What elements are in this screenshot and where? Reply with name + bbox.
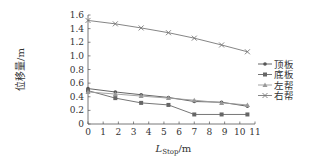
square-marker-icon (263, 73, 267, 77)
square-marker-icon (166, 103, 170, 107)
x-tick-label: 10 (234, 127, 246, 137)
legend-item: 左帮 (258, 80, 294, 91)
y-axis-title: 位移量/m (14, 48, 26, 91)
square-marker-icon (113, 96, 117, 100)
x-axis-title: LStop/m (155, 143, 192, 156)
y-tick-label: 0 (78, 119, 84, 129)
square-marker-icon (192, 112, 196, 116)
axes: 0123456789101100.20.40.60.81.01.21.41.6 (70, 10, 261, 137)
y-tick-label: 1.4 (70, 24, 85, 34)
dot-marker-icon (263, 62, 267, 66)
legend-label: 右帮 (274, 90, 294, 101)
x-axis-label: LStop/m (155, 143, 192, 156)
y-tick-label: 1.0 (70, 51, 85, 61)
y-tick-label: 0.2 (70, 105, 84, 115)
x-tick-label: 8 (207, 127, 213, 137)
x-tick-label: 9 (222, 127, 228, 137)
y-tick-label: 0.6 (70, 78, 85, 88)
line-chart: 位移量/m 0123456789101100.20.40.60.81.01.21… (0, 0, 320, 163)
square-marker-icon (245, 112, 249, 116)
legend-label: 左帮 (274, 80, 294, 91)
legend-item: 底板 (258, 69, 294, 80)
x-tick-label: 3 (131, 127, 137, 137)
x-tick-label: 5 (161, 127, 167, 137)
series-3 (86, 18, 250, 54)
series-group (86, 18, 250, 117)
x-tick-label: 11 (249, 127, 260, 137)
x-tick-label: 1 (100, 127, 106, 137)
square-marker-icon (139, 101, 143, 105)
y-tick-label: 0.4 (70, 92, 85, 102)
x-tick-label: 0 (85, 127, 91, 137)
y-axis-label: 位移量/m (14, 48, 26, 91)
y-tick-label: 1.2 (70, 37, 84, 47)
legend-label: 底板 (274, 69, 294, 80)
y-tick-label: 1.6 (70, 10, 85, 20)
legend-item: 顶板 (258, 59, 294, 70)
x-tick-label: 4 (146, 127, 152, 137)
x-tick-label: 2 (115, 127, 121, 137)
x-tick-label: 6 (176, 127, 182, 137)
y-tick-label: 0.8 (70, 65, 85, 75)
legend: 顶板底板左帮右帮 (258, 59, 294, 102)
legend-label: 顶板 (274, 59, 294, 70)
x-tick-label: 7 (191, 127, 197, 137)
legend-item: 右帮 (258, 90, 294, 101)
square-marker-icon (220, 112, 224, 116)
